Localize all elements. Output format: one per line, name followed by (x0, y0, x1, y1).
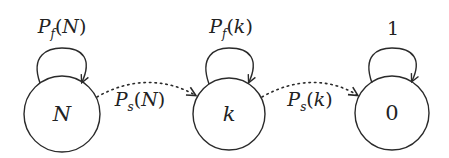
prob-symbol: P (115, 88, 128, 110)
paren-open: ( (55, 15, 62, 37)
paren-close: ) (79, 15, 86, 37)
self-loop-N (37, 48, 86, 83)
prob-symbol: P (38, 15, 51, 37)
self-loop-label-k: Pf(k) (209, 15, 253, 41)
prob-arg: k (314, 88, 326, 110)
edge-label-k-to-0: Ps(k) (287, 88, 332, 114)
prob-arg: N (62, 15, 79, 37)
node-label-N: N (53, 102, 71, 126)
prob-symbol: P (287, 88, 300, 110)
node-label-k: k (223, 102, 236, 126)
node-k (193, 48, 265, 150)
self-loop-label-0: 1 (387, 17, 399, 39)
paren-close: ) (245, 15, 252, 37)
self-loop-0 (369, 48, 416, 83)
node-N (24, 48, 100, 152)
self-loop-label-N: Pf(N) (38, 15, 87, 41)
prob-arg: k (234, 15, 246, 37)
paren-close: ) (325, 88, 332, 110)
node-label-0: 0 (385, 101, 398, 125)
edge-label-N-to-k: Ps(N) (115, 88, 165, 114)
prob-arg: N (141, 88, 158, 110)
prob-symbol: P (209, 15, 222, 37)
paren-open: ( (226, 15, 233, 37)
paren-close: ) (158, 88, 165, 110)
node-0 (355, 48, 429, 150)
